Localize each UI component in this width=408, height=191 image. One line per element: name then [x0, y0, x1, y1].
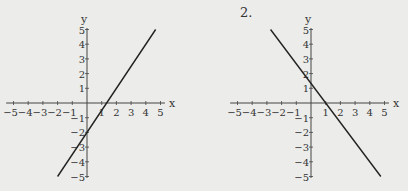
problem-number: 2. [240, 5, 252, 20]
y-tick-label: 1 [79, 83, 85, 94]
y-tick-label: 3 [303, 54, 309, 65]
x-tick-label: −5 [3, 107, 18, 118]
x-tick-label: 1 [323, 107, 329, 118]
x-tick-label: −2 [271, 107, 286, 118]
x-tick-label: 2 [113, 107, 119, 118]
x-tick-label: −4 [242, 107, 257, 118]
y-tick-label: −5 [70, 172, 85, 183]
y-tick-label: −4 [294, 157, 309, 168]
y-tick-label: 4 [79, 39, 85, 50]
x-tick-label: 3 [352, 107, 358, 118]
y-tick-label: 5 [303, 25, 309, 36]
x-tick-label: −2 [47, 107, 62, 118]
x-tick-label: −5 [227, 107, 242, 118]
x-tick-label: 4 [143, 107, 149, 118]
x-tick-label: 2 [337, 107, 343, 118]
x-axis-label: x [169, 97, 176, 110]
y-tick-label: −2 [294, 127, 309, 138]
y-tick-label: −1 [70, 113, 85, 124]
x-tick-label: 4 [367, 107, 373, 118]
y-tick-label: −5 [294, 172, 309, 183]
x-axis-label: x [393, 97, 400, 110]
y-axis-label: y [304, 13, 312, 26]
x-tick-label: 5 [157, 107, 163, 118]
y-tick-label: 2 [79, 69, 85, 80]
y-axis-label: y [80, 13, 88, 26]
x-tick-label: 3 [128, 107, 134, 118]
x-tick-label: −3 [33, 107, 48, 118]
y-tick-label: 5 [79, 25, 85, 36]
x-tick-label: −3 [257, 107, 272, 118]
x-tick-label: 5 [381, 107, 387, 118]
y-tick-label: −2 [70, 127, 85, 138]
y-tick-label: 1 [303, 83, 309, 94]
y-tick-label: 4 [303, 39, 309, 50]
y-tick-label: −1 [294, 113, 309, 124]
graphs-canvas: −5−5−4−4−3−3−2−2−1−11122334455xy−5−5−4−4… [0, 0, 408, 191]
y-tick-label: −3 [294, 142, 309, 153]
y-tick-label: 3 [79, 54, 85, 65]
y-tick-label: −4 [70, 157, 85, 168]
x-tick-label: −4 [18, 107, 33, 118]
